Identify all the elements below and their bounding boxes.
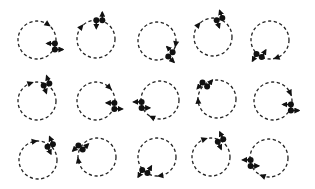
dashed-circle bbox=[141, 81, 179, 119]
rotation-arrow-icon bbox=[148, 113, 156, 121]
dashed-circle bbox=[198, 80, 236, 118]
vortex-cell bbox=[73, 138, 116, 176]
vortex-cell bbox=[138, 22, 179, 62]
vortex-cell bbox=[18, 20, 63, 59]
dipole-dot bbox=[139, 105, 145, 111]
dipole-dot bbox=[165, 54, 171, 60]
vortex-cell bbox=[138, 138, 176, 179]
dashed-circle bbox=[18, 21, 56, 59]
vortex-cell bbox=[251, 21, 289, 62]
vortex-cell bbox=[195, 80, 236, 119]
dipole bbox=[106, 100, 122, 112]
dipole-dot bbox=[80, 147, 86, 153]
dipole bbox=[41, 76, 53, 93]
dipole-dot bbox=[45, 144, 51, 150]
dipole bbox=[93, 12, 105, 28]
rotation-arrow-icon bbox=[286, 89, 294, 97]
rotation-arrow-icon bbox=[272, 54, 280, 62]
dipole-dot bbox=[170, 49, 176, 55]
dipole-dot bbox=[288, 108, 294, 114]
dipole-dot bbox=[204, 83, 210, 89]
vortex-cell bbox=[134, 81, 179, 121]
dipole bbox=[215, 132, 226, 149]
dipole bbox=[47, 41, 63, 53]
vortex-cell bbox=[77, 82, 122, 120]
dipole bbox=[138, 166, 151, 177]
dipole-dot bbox=[139, 99, 145, 105]
dipole-dot bbox=[52, 41, 58, 47]
dipole-dot bbox=[75, 142, 81, 148]
dipole-dot bbox=[214, 17, 220, 23]
dipole bbox=[134, 99, 150, 111]
rotation-arrow-icon bbox=[258, 172, 266, 180]
vortex-cell bbox=[243, 139, 288, 180]
dipole-dot bbox=[220, 136, 226, 142]
dipole bbox=[214, 11, 226, 28]
dipole-dot bbox=[215, 139, 221, 145]
dashed-circle bbox=[18, 82, 56, 120]
dipole-dot bbox=[288, 102, 294, 108]
dipole bbox=[45, 137, 56, 154]
dipole-circle-grid bbox=[0, 0, 315, 189]
dipole-dot bbox=[248, 157, 254, 163]
rotation-arrow-icon bbox=[27, 79, 35, 87]
vortex-cell bbox=[19, 137, 57, 179]
dipole bbox=[243, 157, 259, 169]
dipole-dot bbox=[50, 141, 56, 147]
dipole-dot bbox=[52, 47, 58, 53]
dipole-dot bbox=[46, 81, 52, 87]
rotation-arrow-icon bbox=[201, 135, 209, 143]
dashed-circle bbox=[78, 138, 116, 176]
dipole-dot bbox=[111, 106, 117, 112]
dipole-dot bbox=[93, 17, 99, 23]
dipole-dot bbox=[41, 83, 47, 89]
dipole-dot bbox=[254, 51, 260, 57]
cell-group bbox=[18, 11, 299, 180]
vortex-cell bbox=[77, 12, 115, 58]
dipole-dot bbox=[144, 170, 150, 176]
dashed-circle bbox=[254, 82, 292, 120]
vortex-cell bbox=[254, 82, 299, 120]
dipole-dot bbox=[259, 54, 265, 60]
dashed-circle bbox=[192, 138, 230, 176]
dashed-circle bbox=[250, 139, 288, 177]
dipole-dot bbox=[219, 15, 225, 21]
vortex-cell bbox=[18, 76, 56, 120]
dashed-circle bbox=[138, 22, 176, 60]
rotation-arrow-icon bbox=[195, 97, 202, 104]
dipole bbox=[283, 102, 299, 114]
vortex-cell bbox=[194, 11, 232, 56]
dipole-dot bbox=[248, 163, 254, 169]
vortex-cell bbox=[192, 132, 230, 176]
dipole-dot bbox=[139, 167, 145, 173]
dipole-dot bbox=[111, 100, 117, 106]
dipole bbox=[73, 142, 89, 152]
dipole-dot bbox=[200, 80, 206, 86]
dipole-dot bbox=[99, 17, 105, 23]
